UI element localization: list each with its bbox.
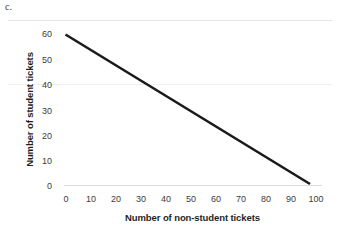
y-axis-title: Number of student tickets	[24, 35, 35, 185]
part-label: c.	[5, 1, 12, 13]
figure-container: c. 60 50 40 30 20 10 0 0 10 20 30 40 50 …	[0, 0, 342, 239]
x-tick-100: 100	[301, 194, 331, 204]
data-line-series-0	[66, 35, 311, 185]
x-axis-title: Number of non-student tickets	[60, 212, 325, 223]
line-chart: 60 50 40 30 20 10 0 0 10 20 30 40 50 60 …	[0, 14, 342, 239]
plot-canvas	[0, 14, 342, 239]
